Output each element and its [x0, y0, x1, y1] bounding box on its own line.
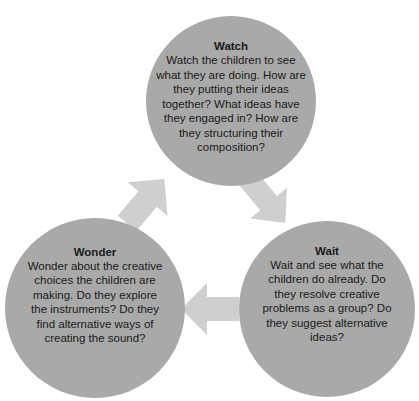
node-watch: Watch Watch the children to see what the… [146, 16, 316, 186]
node-wonder-body: Wonder about the creative choices the ch… [25, 259, 165, 346]
node-wonder: Wonder Wonder about the creative choices… [5, 218, 185, 398]
node-wait-title: Wait [315, 244, 339, 258]
arrow-wait-to-wonder [181, 283, 239, 335]
node-watch-title: Watch [214, 39, 248, 53]
node-watch-body: Watch the children to see what they are … [156, 53, 306, 155]
node-wait: Wait Wait and see what the children do a… [239, 221, 415, 397]
node-wait-body: Wait and see what the children do alread… [262, 258, 392, 345]
node-wonder-title: Wonder [74, 245, 117, 259]
